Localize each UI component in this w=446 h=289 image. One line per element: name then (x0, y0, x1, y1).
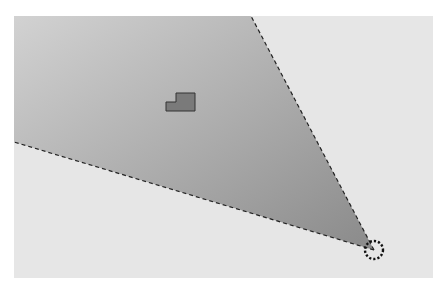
vision-cone (14, 16, 374, 250)
vision-cone-canvas (0, 0, 446, 289)
